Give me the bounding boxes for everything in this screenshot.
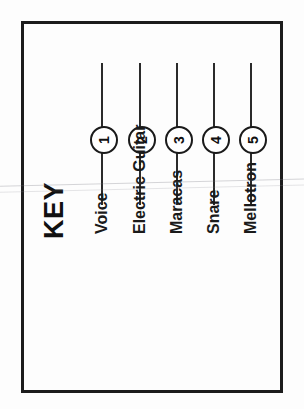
legend-entry-label: Snare <box>206 190 222 234</box>
legend-entry-label-wrap: Mellotron <box>240 64 262 234</box>
legend-entry-label-wrap: Electric Guitar <box>129 64 151 234</box>
page-title: KEY <box>40 165 70 255</box>
legend-entry-label: Mellotron <box>243 162 259 234</box>
legend-entry-label: Electric Guitar <box>132 125 148 234</box>
legend-entry-label-wrap: Snare <box>203 64 225 234</box>
legend-entry-mellotron[interactable]: 5Mellotron <box>229 0 273 409</box>
legend-entry-label-wrap: Voice <box>91 64 113 234</box>
legend-entry-label-wrap: Maracas <box>166 64 188 234</box>
legend-entry-label: Voice <box>94 193 110 235</box>
legend-entry-label: Maracas <box>169 170 185 234</box>
scanned-page: KEY 1Voice2Electric Guitar3Maracas4Snare… <box>0 0 304 409</box>
